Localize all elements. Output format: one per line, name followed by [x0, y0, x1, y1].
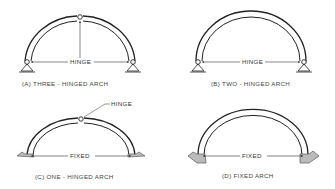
caption-b: (B) TWO - HINGED ARCH [211, 80, 290, 87]
left-fixed-support-icon [188, 152, 206, 163]
panel-b-two-hinged-arch: HINGE (B) TWO - HINGED ARCH [190, 11, 312, 87]
crown-hinge-icon [79, 117, 83, 121]
panel-c-one-hinged-arch: HINGE FIXED (C) ONE - HINGED ARCH [17, 100, 145, 180]
crown-hinge-icon [78, 15, 83, 20]
panel-a-three-hinged-arch: HINGE (A) THREE - HINGED ARCH [19, 15, 141, 87]
hinge-callout-label-c: HINGE [111, 100, 132, 107]
hinge-label-a: HINGE [70, 58, 91, 65]
caption-c: (C) ONE - HINGED ARCH [35, 173, 114, 180]
right-fixed-support-icon [300, 151, 319, 163]
fixed-label-c: FIXED [70, 152, 90, 159]
arch-types-diagram: HINGE (A) THREE - HINGED ARCH HINGE (B) … [0, 0, 335, 189]
caption-a: (A) THREE - HINGED ARCH [22, 80, 108, 87]
panel-d-fixed-arch: FIXED (D) FIXED ARCH [188, 109, 319, 179]
hinge-label-b: HINGE [242, 58, 263, 65]
caption-d: (D) FIXED ARCH [222, 172, 274, 179]
fixed-label-d: FIXED [242, 152, 262, 159]
